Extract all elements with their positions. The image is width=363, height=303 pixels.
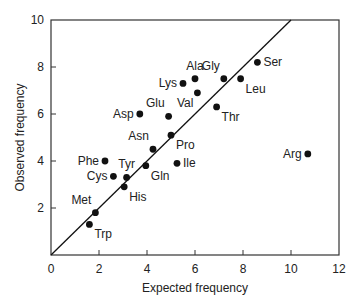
point-label: Tyr xyxy=(118,157,135,171)
point-marker xyxy=(168,132,175,139)
data-point-val: Val xyxy=(177,89,201,109)
point-marker xyxy=(174,160,181,167)
point-marker xyxy=(254,59,261,66)
y-axis-label: Observed frequency xyxy=(13,83,27,191)
point-marker xyxy=(110,173,117,180)
point-label: Asn xyxy=(128,129,149,143)
point-marker xyxy=(136,111,143,118)
point-marker xyxy=(180,80,187,87)
y-tick-label: 2 xyxy=(37,201,44,215)
point-marker xyxy=(304,151,311,158)
point-marker xyxy=(220,75,227,82)
point-label: Glu xyxy=(146,96,165,110)
x-tick-label: 4 xyxy=(144,262,151,276)
x-tick-label: 10 xyxy=(284,262,298,276)
point-marker xyxy=(123,174,130,181)
plot-frame xyxy=(51,20,339,255)
point-label: Pro xyxy=(176,138,195,152)
data-point-arg: Arg xyxy=(283,147,311,161)
point-label: Thr xyxy=(222,110,240,124)
data-point-asn: Asn xyxy=(128,129,156,152)
point-marker xyxy=(165,113,172,120)
x-tick-label: 2 xyxy=(96,262,103,276)
data-point-pro: Pro xyxy=(168,132,195,152)
point-marker xyxy=(192,75,199,82)
data-point-trp: Trp xyxy=(86,221,112,241)
scatter-chart: 024681012 246810 SerGlyLeuThrAlaLysValGl… xyxy=(0,0,363,303)
data-point-glu: Glu xyxy=(146,96,172,119)
y-tick-label: 6 xyxy=(37,107,44,121)
point-label: Cys xyxy=(87,169,108,183)
data-point-his: His xyxy=(121,183,147,203)
x-tick-label: 12 xyxy=(332,262,346,276)
point-label: Met xyxy=(71,193,92,207)
data-point-leu: Leu xyxy=(237,75,265,95)
x-tick-label: 8 xyxy=(240,262,247,276)
data-point-ile: Ile xyxy=(174,156,196,170)
x-tick-label: 6 xyxy=(192,262,199,276)
point-marker xyxy=(86,221,93,228)
point-label: Ala xyxy=(186,59,204,73)
point-label: Asp xyxy=(113,107,134,121)
data-point-gln: Gln xyxy=(142,162,169,182)
point-label: Gly xyxy=(202,59,220,73)
point-label: Ile xyxy=(183,156,196,170)
point-label: Arg xyxy=(283,147,302,161)
point-marker xyxy=(121,183,128,190)
y-axis: 246810 xyxy=(31,13,56,215)
x-axis-label: Expected frequency xyxy=(142,281,248,295)
x-tick-label: 0 xyxy=(48,262,55,276)
y-tick-label: 10 xyxy=(31,13,45,27)
data-point-phe: Phe xyxy=(78,154,109,168)
x-axis: 024681012 xyxy=(48,250,346,276)
point-marker xyxy=(150,146,157,153)
data-point-asp: Asp xyxy=(113,107,143,121)
point-label: Trp xyxy=(94,227,112,241)
point-label: Gln xyxy=(151,169,170,183)
y-tick-label: 8 xyxy=(37,60,44,74)
data-point-met: Met xyxy=(71,193,98,216)
point-marker xyxy=(237,75,244,82)
plot-border xyxy=(51,20,339,255)
data-point-gly: Gly xyxy=(202,59,227,82)
point-marker xyxy=(92,209,99,216)
point-label: Val xyxy=(177,96,193,110)
point-label: Phe xyxy=(78,154,100,168)
data-point-cys: Cys xyxy=(87,169,117,183)
point-marker xyxy=(213,104,220,111)
data-point-tyr: Tyr xyxy=(118,157,135,180)
data-points: SerGlyLeuThrAlaLysValGluAspProAsnIleGlnP… xyxy=(71,55,311,241)
data-point-ala: Ala xyxy=(186,59,204,82)
y-tick-label: 4 xyxy=(37,154,44,168)
data-point-ser: Ser xyxy=(254,55,282,69)
data-point-lys: Lys xyxy=(159,76,187,90)
point-marker xyxy=(194,89,201,96)
point-label: His xyxy=(129,190,146,204)
data-point-thr: Thr xyxy=(213,104,239,124)
point-marker xyxy=(142,162,149,169)
point-label: Leu xyxy=(246,82,266,96)
point-label: Lys xyxy=(159,76,177,90)
point-marker xyxy=(102,158,109,165)
point-label: Ser xyxy=(263,55,282,69)
